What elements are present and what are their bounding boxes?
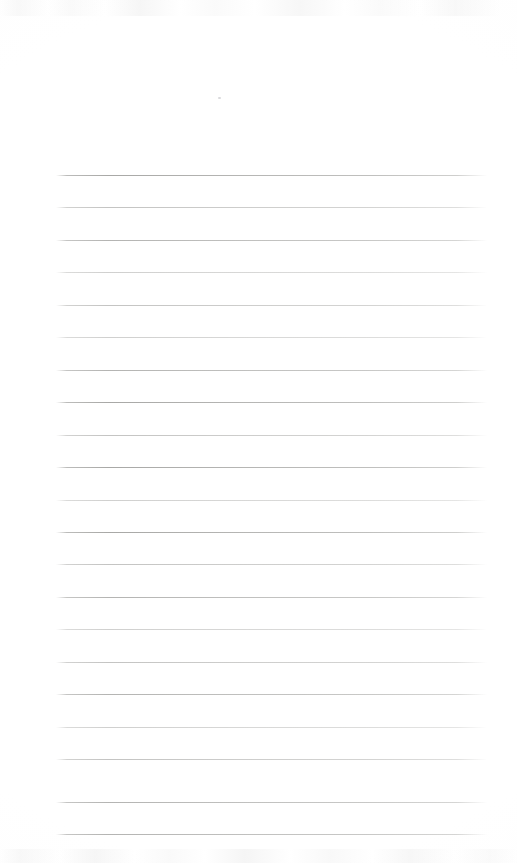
rule-line (56, 629, 487, 630)
rule-line (56, 370, 487, 371)
rule-line (56, 834, 487, 835)
rule-line (56, 435, 487, 436)
rule-line (56, 305, 487, 306)
rule-line (56, 240, 487, 241)
rule-line (56, 272, 487, 273)
rule-line (56, 597, 487, 598)
rule-line (56, 759, 487, 760)
scan-speck (218, 97, 221, 99)
rule-line (56, 175, 487, 176)
rule-line (56, 207, 487, 208)
rule-line (56, 694, 487, 695)
rule-line (56, 564, 487, 565)
rule-line (56, 532, 487, 533)
ruled-lines-group (0, 0, 517, 863)
rule-line (56, 500, 487, 501)
notebook-page (0, 0, 517, 863)
rule-line (56, 727, 487, 728)
rule-line (56, 402, 487, 403)
rule-line (56, 802, 487, 803)
rule-line (56, 467, 487, 468)
rule-line (56, 662, 487, 663)
rule-line (56, 337, 487, 338)
